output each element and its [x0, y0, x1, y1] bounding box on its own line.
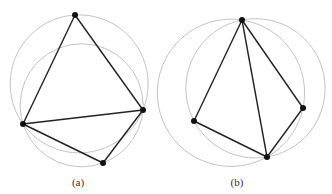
circumcircle-1 [10, 15, 148, 153]
edge-top-bottom [242, 20, 267, 157]
edge-top-left [194, 20, 242, 121]
edge-top-left [23, 15, 75, 124]
edge-right-bottom [103, 110, 143, 163]
edge-left-bottom [23, 124, 103, 163]
edge-top-right [75, 15, 143, 110]
figure: (a) (b) [0, 0, 332, 194]
vertex-left [20, 121, 26, 127]
vertex-bottom [100, 160, 106, 166]
panel-b [157, 17, 325, 166]
vertex-top [72, 12, 78, 18]
edge-top-right [242, 20, 303, 108]
vertex-top [239, 17, 245, 23]
caption-b: (b) [231, 176, 244, 188]
diagram-canvas [0, 0, 332, 194]
edge-right-bottom [267, 108, 303, 157]
edge-left-right [23, 110, 143, 124]
vertex-left [191, 118, 197, 124]
vertex-right [300, 105, 306, 111]
caption-a: (a) [72, 176, 84, 188]
panel-a [10, 12, 148, 167]
vertex-bottom [264, 154, 270, 160]
edge-left-bottom [194, 121, 267, 157]
circumcircle-2 [157, 19, 304, 166]
vertex-right [140, 107, 146, 113]
circumcircle-2 [20, 44, 143, 167]
